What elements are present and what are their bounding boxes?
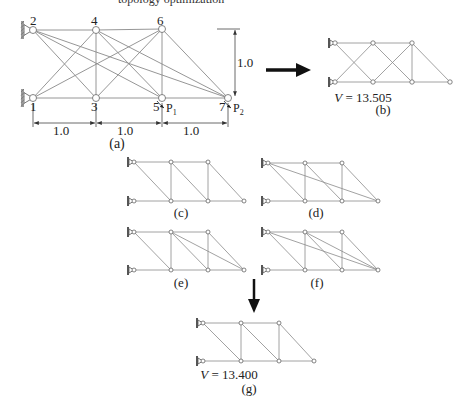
node-c-2 (132, 160, 136, 164)
node-f-7 (376, 268, 380, 272)
member-2-7 (268, 232, 378, 270)
panel-a-caption: (a) (109, 137, 125, 151)
node-label-2: 2 (30, 14, 37, 27)
truss-panel-f (268, 232, 378, 270)
member-4-5 (171, 232, 208, 270)
node-d-1 (266, 199, 270, 203)
node-a-5 (159, 95, 166, 102)
member-2-3 (268, 163, 305, 201)
dim-label-vertical: 1.0 (237, 56, 253, 69)
node-d-5 (340, 199, 344, 203)
node-f-5 (340, 268, 344, 272)
truss-panel-c (134, 162, 244, 201)
dim-label-3: 1.0 (183, 124, 199, 137)
node-c-7 (242, 199, 246, 203)
node-c-1 (132, 199, 136, 203)
node-g-6 (277, 321, 281, 325)
node-b-1 (333, 80, 337, 84)
node-d-6 (340, 161, 344, 165)
truss-panel-b (335, 43, 450, 82)
member-4-5 (171, 162, 208, 201)
panel-d-caption: (d) (308, 206, 323, 219)
node-label-1: 1 (30, 100, 37, 113)
node-b-2 (333, 41, 337, 45)
panel-b-caption: (b) (375, 103, 390, 116)
node-c-4 (169, 160, 173, 164)
member-2-3 (134, 162, 171, 201)
node-label-3: 3 (91, 100, 98, 113)
member-6-7 (162, 29, 228, 98)
truss-panel-a (33, 29, 228, 98)
node-f-4 (303, 230, 307, 234)
node-c-5 (206, 199, 210, 203)
member-6-7 (342, 163, 378, 201)
panel-g-volume: V = 13.400 (200, 368, 258, 381)
truss-nodes (30, 26, 453, 364)
load-p2-sub: 2 (240, 108, 244, 117)
node-d-2 (266, 161, 270, 165)
node-e-4 (169, 230, 173, 234)
node-g-7 (312, 359, 316, 363)
node-g-3 (239, 359, 243, 363)
node-b-5 (410, 80, 414, 84)
node-d-3 (303, 199, 307, 203)
member-4-5 (241, 323, 279, 361)
node-g-5 (277, 359, 281, 363)
node-e-3 (169, 268, 173, 272)
member-6-7 (279, 323, 314, 361)
node-c-3 (169, 199, 173, 203)
node-b-4 (371, 41, 375, 45)
node-e-2 (132, 230, 136, 234)
member-4-7 (171, 232, 244, 270)
member-2-7 (268, 163, 378, 201)
node-e-7 (242, 268, 246, 272)
member-2-3 (134, 232, 171, 270)
truss-panel-g (203, 323, 314, 361)
member-2-3 (203, 323, 241, 361)
panel-c-caption: (c) (174, 206, 188, 219)
node-e-5 (206, 268, 210, 272)
member-6-7 (208, 232, 244, 270)
node-label-4: 4 (91, 14, 98, 27)
node-c-6 (206, 160, 210, 164)
node-g-4 (239, 321, 243, 325)
node-label-6: 6 (157, 14, 164, 27)
load-p1-label: P1 (166, 102, 177, 117)
load-p2-label: P2 (233, 102, 244, 117)
node-d-7 (376, 199, 380, 203)
member-6-7 (412, 43, 450, 82)
node-f-6 (340, 230, 344, 234)
node-f-2 (266, 230, 270, 234)
truss-panel-d (268, 163, 378, 201)
member-6-7 (342, 232, 378, 270)
member-2-3 (268, 232, 305, 270)
node-d-4 (303, 161, 307, 165)
member-4-6 (96, 29, 162, 30)
truss-members (33, 29, 450, 361)
node-b-7 (448, 80, 452, 84)
node-f-3 (303, 268, 307, 272)
transition-arrow-right-icon (266, 63, 311, 77)
member-4-7 (305, 232, 378, 270)
node-g-2 (201, 321, 205, 325)
node-label-5: 5 (153, 100, 160, 113)
load-p1-sub: 1 (173, 108, 177, 117)
transition-arrow-down-icon (248, 279, 260, 313)
member-2-7 (33, 30, 228, 98)
dim-label-1: 1.0 (53, 124, 69, 137)
node-e-1 (132, 268, 136, 272)
node-label-7: 7 (219, 100, 226, 113)
node-g-1 (201, 359, 205, 363)
truss-panel-e (134, 232, 244, 270)
panel-f-caption: (f) (311, 276, 324, 289)
node-e-6 (206, 230, 210, 234)
panel-g-caption: (g) (241, 382, 256, 395)
truss-figure (0, 0, 469, 411)
supports (21, 21, 335, 366)
panel-e-caption: (e) (174, 276, 188, 289)
node-b-3 (371, 80, 375, 84)
node-b-6 (410, 41, 414, 45)
node-f-1 (266, 268, 270, 272)
member-6-7 (208, 162, 244, 201)
